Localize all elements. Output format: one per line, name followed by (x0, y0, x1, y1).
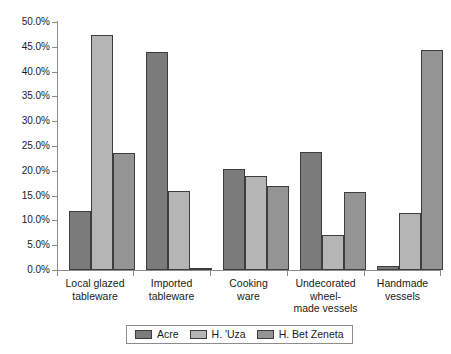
bar-huza (91, 35, 113, 270)
category-label-line: tableware (57, 290, 133, 303)
y-tick-label: 10.0% (4, 215, 50, 225)
y-tick-label: 15.0% (4, 191, 50, 201)
bar-hbetzeneta (267, 186, 289, 270)
y-tick-label: 45.0% (4, 42, 50, 52)
category-label-4: Handmade vessels (364, 277, 441, 302)
category-label-line: tableware (133, 290, 210, 303)
legend: Acre H. 'Uza H. Bet Zeneta (126, 325, 353, 344)
legend-item-huza[interactable]: H. 'Uza (190, 329, 246, 340)
x-separator-tick (57, 270, 58, 276)
legend-item-hbetzeneta[interactable]: H. Bet Zeneta (257, 329, 344, 340)
x-separator-tick (287, 270, 288, 276)
category-label-3: Undecorated wheel- made vessels (283, 277, 368, 315)
y-tick-label: 5.0% (4, 240, 50, 250)
bar-acre (223, 169, 245, 270)
plot-area (57, 16, 441, 270)
bar-huza (245, 176, 267, 270)
bar-hbetzeneta (421, 50, 443, 270)
bar-acre (146, 52, 168, 270)
category-label-line: wheel- (283, 290, 368, 303)
legend-label: H. Bet Zeneta (279, 329, 344, 340)
category-label-line: ware (210, 290, 287, 303)
y-tick-label: 50.0% (4, 17, 50, 27)
x-axis-line (57, 270, 441, 271)
legend-swatch-icon (135, 330, 152, 339)
category-label-line: vessels (364, 290, 441, 303)
bar-acre (300, 152, 322, 270)
bar-hbetzeneta (113, 153, 135, 270)
bar-huza (168, 191, 190, 270)
bar-hbetzeneta (190, 268, 212, 270)
x-separator-tick (364, 270, 365, 276)
category-label-line: Imported (133, 277, 210, 290)
bar-acre (377, 266, 399, 270)
legend-item-acre[interactable]: Acre (135, 329, 179, 340)
category-label-line: Handmade (364, 277, 441, 290)
x-separator-tick (133, 270, 134, 276)
y-tick-label: 25.0% (4, 141, 50, 151)
bar-huza (399, 213, 421, 270)
y-tick-label: 40.0% (4, 67, 50, 77)
x-separator-tick (210, 270, 211, 276)
bar-huza (322, 235, 344, 270)
y-tick-label: 30.0% (4, 116, 50, 126)
legend-swatch-icon (257, 330, 274, 339)
y-tick-label: 35.0% (4, 91, 50, 101)
category-label-0: Local glazed tableware (57, 277, 133, 302)
bar-hbetzeneta (344, 192, 366, 270)
legend-label: H. 'Uza (212, 329, 246, 340)
y-tick-label: 0.0% (4, 265, 50, 275)
category-label-1: Imported tableware (133, 277, 210, 302)
x-separator-tick (440, 270, 441, 276)
legend-label: Acre (157, 329, 179, 340)
bar-acre (69, 211, 91, 270)
bar-chart: 50.0% 45.0% 40.0% 35.0% 30.0% 25.0% 20.0… (0, 0, 451, 354)
category-label-line: Local glazed (57, 277, 133, 290)
category-label-line: Cooking (210, 277, 287, 290)
category-label-line: Undecorated (283, 277, 368, 290)
y-tick-label: 20.0% (4, 166, 50, 176)
category-label-line: made vessels (283, 302, 368, 315)
legend-swatch-icon (190, 330, 207, 339)
category-label-2: Cooking ware (210, 277, 287, 302)
